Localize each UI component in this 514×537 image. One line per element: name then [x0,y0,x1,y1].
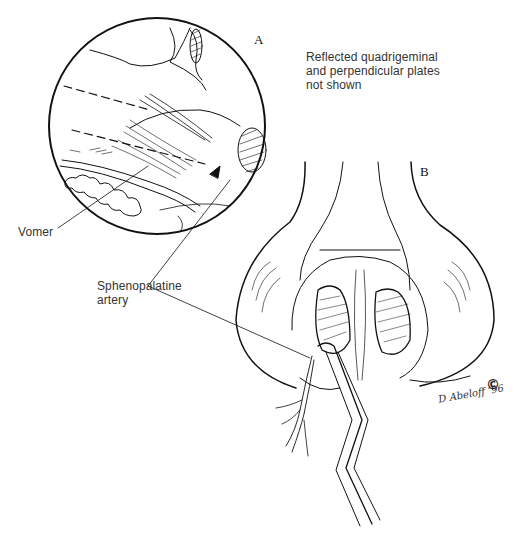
note-line-1: Reflected quadrigeminal [306,50,440,64]
panel-a-label: A [254,32,263,48]
note-line-3: not shown [306,78,440,92]
sphenopalatine-line-2: artery [97,293,182,307]
panel-a-inset [49,18,266,234]
panel-b-view [236,162,494,526]
note-line-2: and perpendicular plates [306,64,440,78]
copyright-symbol: © [486,376,500,392]
sphenopalatine-line-1: Sphenopalatine [97,279,182,293]
panel-b-label: B [420,164,429,180]
vomer-label: Vomer [18,225,53,239]
note-text: Reflected quadrigeminal and perpendicula… [306,50,440,92]
sphenopalatine-artery-label: Sphenopalatine artery [97,279,182,307]
